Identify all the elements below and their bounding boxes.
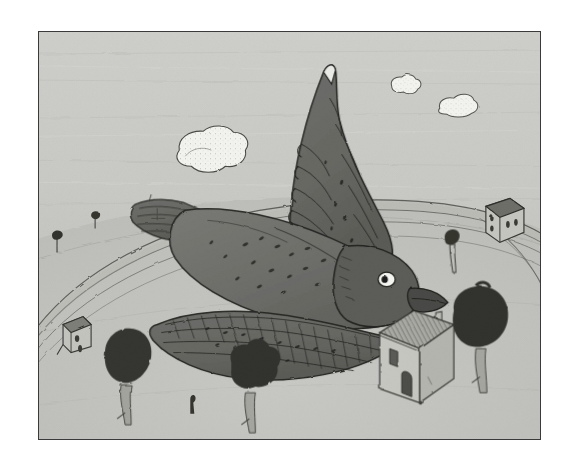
illustration-frame: Large bird in flight over a rural landsc… (38, 31, 541, 440)
artwork-page: Large bird in flight over a rural landsc… (0, 0, 571, 471)
paper-grain-overlay (39, 32, 540, 439)
illustration-canvas (39, 32, 540, 439)
